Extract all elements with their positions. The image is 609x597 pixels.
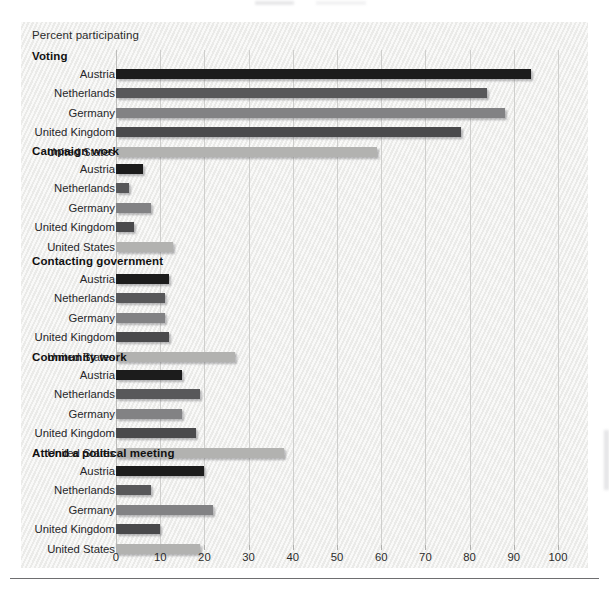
bar-row: Germany	[21, 104, 588, 123]
bar-row: United Kingdom	[21, 328, 588, 347]
bar-row-label: Netherlands	[0, 388, 115, 400]
plot-area: Percent participating VotingAustriaNethe…	[21, 22, 588, 568]
bar-row-label: Netherlands	[0, 484, 115, 496]
x-tick-mark-90	[514, 545, 515, 550]
bar-group-title: Community work	[32, 351, 127, 363]
bar-row-label: United Kingdom	[0, 331, 115, 343]
bar-group-title: Campaign work	[32, 145, 119, 157]
bar-row: United Kingdom	[21, 520, 588, 539]
x-tick-mark-20	[204, 545, 205, 550]
bar-row: Germany	[21, 405, 588, 424]
bar	[116, 108, 505, 118]
bar-row-label: Austria	[0, 465, 115, 477]
x-tick-label-20: 20	[198, 551, 211, 563]
x-tick-label-40: 40	[287, 551, 300, 563]
bar-row: Netherlands	[21, 385, 588, 404]
x-tick-label-70: 70	[419, 551, 432, 563]
bar	[116, 88, 487, 98]
bar-row-label: Netherlands	[0, 182, 115, 194]
axis-title: Percent participating	[32, 29, 139, 41]
x-tick-label-10: 10	[154, 551, 167, 563]
bar-row: Austria	[21, 462, 588, 481]
x-tick-mark-100	[558, 545, 559, 550]
x-tick-label-30: 30	[242, 551, 255, 563]
scan-artifact-right-edge	[604, 430, 609, 490]
bar-row-label: Austria	[0, 163, 115, 175]
x-tick-mark-50	[337, 545, 338, 550]
bar	[116, 242, 173, 252]
bar-row-label: Germany	[0, 202, 115, 214]
x-tick-mark-60	[381, 545, 382, 550]
bar-row-label: United Kingdom	[0, 126, 115, 138]
bar-row-label: Germany	[0, 408, 115, 420]
bar	[116, 127, 461, 137]
bar-row-label: Austria	[0, 273, 115, 285]
bar-row: Austria	[21, 65, 588, 84]
x-tick-mark-10	[160, 545, 161, 550]
bar	[116, 293, 165, 303]
x-tick-label-0: 0	[113, 551, 119, 563]
bar	[116, 203, 151, 213]
bar	[116, 332, 169, 342]
bar-row: Austria	[21, 366, 588, 385]
bar-row-label: Germany	[0, 504, 115, 516]
bar	[116, 147, 377, 157]
bar-row-label: United Kingdom	[0, 221, 115, 233]
bar-row: Germany	[21, 309, 588, 328]
scan-artifact-top	[255, 1, 455, 5]
x-tick-label-60: 60	[375, 551, 388, 563]
chart-panel: Percent participating VotingAustriaNethe…	[21, 22, 588, 568]
bar-row-label: United States	[0, 241, 115, 253]
x-tick-mark-0	[116, 545, 117, 550]
bar	[116, 485, 151, 495]
bar-row: Austria	[21, 160, 588, 179]
bar	[116, 274, 169, 284]
bar	[116, 389, 200, 399]
bar-row: Germany	[21, 199, 588, 218]
bar	[116, 370, 182, 380]
bar	[116, 222, 134, 232]
bar-row: Netherlands	[21, 481, 588, 500]
bar-row-label: Austria	[0, 68, 115, 80]
bar	[116, 164, 143, 174]
bar-group-rows: AustriaNetherlandsGermanyUnited KingdomU…	[21, 160, 588, 257]
x-tick-mark-30	[249, 545, 250, 550]
x-tick-label-50: 50	[331, 551, 344, 563]
bar	[116, 69, 531, 79]
x-tick-mark-80	[470, 545, 471, 550]
bar-row: Austria	[21, 270, 588, 289]
bar	[116, 183, 129, 193]
bar-row: United Kingdom	[21, 218, 588, 237]
bar-row: Netherlands	[21, 179, 588, 198]
bar-row: United Kingdom	[21, 424, 588, 443]
bar	[116, 409, 182, 419]
bar	[116, 313, 165, 323]
x-axis: 0102030405060708090100	[21, 545, 588, 569]
bar-row-label: Netherlands	[0, 87, 115, 99]
x-tick-label-100: 100	[549, 551, 568, 563]
bar-row-label: Austria	[0, 369, 115, 381]
x-tick-mark-70	[425, 545, 426, 550]
x-tick-label-80: 80	[463, 551, 476, 563]
bar-row-label: Netherlands	[0, 292, 115, 304]
bar-row-label: United Kingdom	[0, 427, 115, 439]
bar	[116, 505, 213, 515]
baseline-rule	[10, 578, 599, 579]
bar	[116, 352, 235, 362]
bar-row: Netherlands	[21, 289, 588, 308]
bar-row-label: United Kingdom	[0, 523, 115, 535]
x-tick-mark-40	[293, 545, 294, 550]
bar-row: Netherlands	[21, 84, 588, 103]
bar-row-label: Germany	[0, 312, 115, 324]
bar-row-label: Germany	[0, 107, 115, 119]
x-tick-label-90: 90	[508, 551, 521, 563]
bar-row: Germany	[21, 501, 588, 520]
bar	[116, 466, 204, 476]
bar	[116, 428, 196, 438]
bar-group-title: Contacting government	[32, 255, 163, 267]
bar-row: United Kingdom	[21, 123, 588, 142]
bar	[116, 524, 160, 534]
bar-group-title: Voting	[32, 50, 68, 62]
bar-group-title: Attend a political meeting	[32, 447, 175, 459]
